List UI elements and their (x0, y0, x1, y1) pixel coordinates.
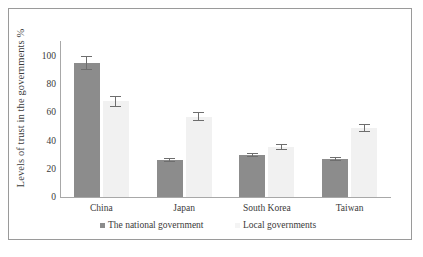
error-bar (169, 158, 171, 162)
error-bar (363, 124, 365, 132)
bar[interactable] (268, 147, 294, 197)
error-bar-cap-top (81, 56, 92, 57)
error-bar (251, 153, 253, 157)
error-bar-cap-top (193, 112, 204, 113)
chart-legend: The national governmentLocal governments (60, 218, 391, 234)
x-axis-line (60, 197, 391, 198)
error-bar-cap-top (247, 153, 258, 154)
bar[interactable] (74, 63, 100, 197)
error-bar-stem (86, 56, 87, 70)
x-axis-tick-label-japan: Japan (143, 201, 226, 215)
x-axis-tick-label-south-korea: South Korea (226, 201, 309, 215)
legend-swatch-icon (100, 223, 105, 228)
error-bar-cap-bottom (81, 69, 92, 70)
error-bar-cap-top (110, 96, 121, 97)
x-axis-tick-labels: ChinaJapanSouth KoreaTaiwan (60, 201, 391, 217)
error-bar-cap-bottom (110, 106, 121, 107)
x-axis-tick-label-china: China (60, 201, 143, 215)
error-bar-cap-top (330, 157, 341, 158)
bar-group (322, 42, 377, 197)
plot-area (60, 42, 390, 197)
bar[interactable] (186, 117, 212, 197)
legend-swatch-icon (235, 223, 240, 228)
error-bar-cap-top (164, 158, 175, 159)
error-bar (334, 157, 336, 161)
y-axis-tick-labels: 020406080100 (30, 0, 56, 257)
bar-group (74, 42, 129, 197)
x-axis-tick-label-taiwan: Taiwan (308, 201, 391, 215)
error-bar-cap-bottom (247, 156, 258, 157)
error-bar (280, 144, 282, 150)
bar[interactable] (239, 155, 265, 197)
y-axis-tick-label: 0 (32, 192, 56, 202)
error-bar-cap-bottom (330, 160, 341, 161)
legend-label: Local governments (243, 218, 316, 232)
legend-label: The national government (108, 218, 204, 232)
y-axis-tick-label: 100 (32, 51, 56, 61)
bar[interactable] (157, 160, 183, 197)
error-bar-cap-bottom (276, 149, 287, 150)
legend-item[interactable]: The national government (100, 218, 204, 232)
y-axis-tick-label: 40 (32, 136, 56, 146)
y-axis-tick-label: 20 (32, 164, 56, 174)
bar-group (157, 42, 212, 197)
error-bar-cap-top (359, 124, 370, 125)
error-bar-cap-bottom (164, 161, 175, 162)
y-axis-tick-label: 80 (32, 79, 56, 89)
bar[interactable] (322, 159, 348, 197)
bar-group (239, 42, 294, 197)
figure: Levels of trust in the governments % 020… (0, 0, 423, 257)
bar[interactable] (351, 128, 377, 197)
error-bar (198, 112, 200, 120)
error-bar (115, 96, 117, 107)
error-bar-cap-bottom (193, 120, 204, 121)
error-bar (86, 56, 88, 70)
y-axis-tick-label: 60 (32, 107, 56, 117)
y-axis-title: Levels of trust in the governments % (14, 18, 28, 198)
legend-item[interactable]: Local governments (235, 218, 316, 232)
error-bar-cap-bottom (359, 131, 370, 132)
error-bar-cap-top (276, 144, 287, 145)
bar[interactable] (103, 101, 129, 197)
